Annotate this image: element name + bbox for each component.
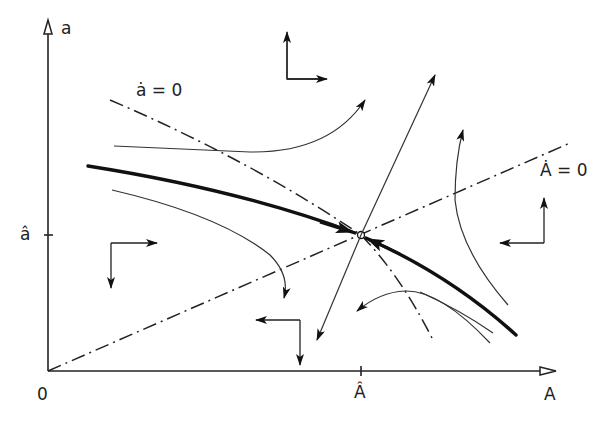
phase-diagram (0, 0, 597, 425)
trajectory-upper-left (114, 100, 365, 152)
Adot-zero-isocline (48, 143, 570, 371)
direction-arrows-right (500, 198, 544, 243)
a-hat-label: â (20, 226, 30, 243)
direction-arrows-top (287, 32, 327, 79)
origin-label: 0 (37, 386, 48, 403)
direction-arrows-left (111, 243, 157, 288)
y-axis-label: a (61, 20, 71, 37)
x-axis-label: A (544, 386, 556, 403)
A-hat-label: Â (354, 384, 366, 401)
x-axis (48, 367, 556, 375)
Adot-zero-label: Ȧ = 0 (540, 162, 588, 179)
saddle-path (88, 166, 516, 335)
adot-zero-label: ȧ = 0 (136, 82, 182, 99)
adot-zero-isocline (110, 100, 432, 338)
unstable-arm (317, 75, 435, 340)
trajectory-right (455, 130, 508, 305)
trajectory-lower-left (112, 190, 285, 298)
direction-arrows-bottom (256, 320, 300, 365)
y-axis (44, 20, 52, 371)
